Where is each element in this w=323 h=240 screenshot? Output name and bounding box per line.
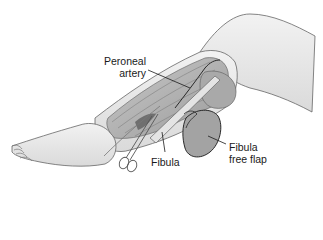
foot — [12, 123, 116, 166]
label-fibula: Fibula — [151, 156, 180, 168]
fibula-free-flap-paddle — [183, 110, 221, 157]
label-peroneal-artery: Peroneal artery — [104, 55, 146, 79]
label-fibula-free-flap: Fibula free flap — [229, 141, 267, 165]
